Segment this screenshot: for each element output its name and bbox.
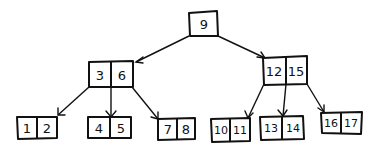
node-key: 16: [324, 117, 338, 130]
edge-root-to-node-3-6: [136, 36, 189, 62]
node-key: 11: [233, 124, 247, 137]
node-key: 12: [266, 64, 283, 79]
internal-node-3-6: 3 6: [89, 61, 133, 87]
edge-root-to-node-12-15: [218, 36, 265, 58]
node-key: 5: [117, 121, 125, 136]
node-key: 3: [96, 68, 104, 83]
b-tree-diagram: 9 3 6 12 15 1 2 4 5 7 8 10 11: [0, 0, 377, 154]
node-key: 8: [182, 122, 190, 137]
node-key: 14: [286, 122, 300, 135]
leaf-node-7-8: 7 8: [158, 118, 195, 140]
node-key: 6: [118, 68, 126, 83]
node-key: 7: [164, 122, 172, 137]
node-key: 15: [288, 64, 305, 79]
leaf-node-13-14: 13 14: [260, 116, 304, 140]
node-key: 10: [214, 124, 228, 137]
node-key: 1: [23, 121, 31, 136]
edge-node-3-6-to-leaf-7-8: [132, 87, 158, 119]
node-key: 2: [43, 121, 51, 136]
leaf-node-10-11: 10 11: [211, 118, 250, 142]
node-key: 4: [95, 121, 103, 136]
arrowhead-icon: [278, 110, 287, 116]
edge-node-12-15-to-leaf-16-17: [307, 84, 324, 112]
edge-node-12-15-to-leaf-10-11: [248, 84, 264, 118]
arrowhead-icon: [136, 57, 143, 63]
internal-node-12-15: 12 15: [263, 56, 307, 85]
leaf-node-16-17: 16 17: [321, 112, 362, 134]
leaf-node-1-2: 1 2: [17, 117, 57, 139]
node-key: 13: [264, 122, 278, 135]
root-node: 9: [189, 11, 218, 36]
leaf-node-4-5: 4 5: [88, 117, 131, 138]
edge-node-3-6-to-leaf-1-2: [58, 87, 89, 115]
node-key: 9: [200, 17, 208, 32]
node-key: 17: [344, 117, 358, 130]
